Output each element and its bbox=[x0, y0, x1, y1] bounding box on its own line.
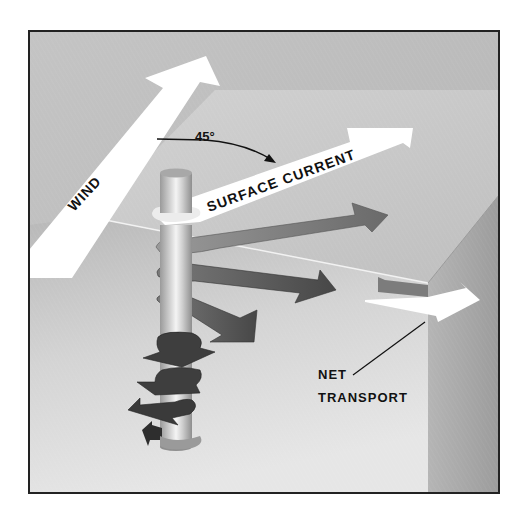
spiral-column-top bbox=[160, 169, 192, 178]
ekman-spiral-diagram: WIND 45° SURFACE CURRENT NET TRANSPORT bbox=[0, 0, 529, 513]
net-transport-label-line1: NET bbox=[318, 367, 347, 382]
net-transport-label-line2: TRANSPORT bbox=[318, 390, 408, 405]
spiral-column-upper bbox=[160, 173, 192, 213]
texture-overlay bbox=[29, 31, 499, 493]
angle-label: 45° bbox=[195, 129, 215, 144]
